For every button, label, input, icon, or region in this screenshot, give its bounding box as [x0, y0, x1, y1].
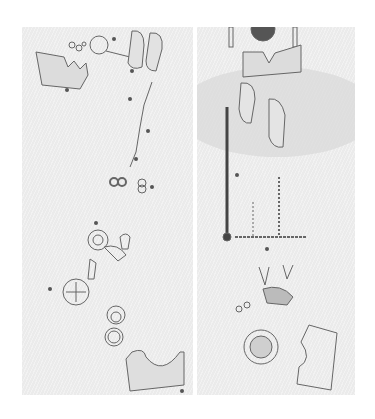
right-artifact-drawing — [197, 27, 355, 395]
left-artifact-drawing — [22, 27, 193, 395]
right-drawing-panel — [197, 27, 355, 395]
left-drawing-panel — [22, 27, 193, 395]
